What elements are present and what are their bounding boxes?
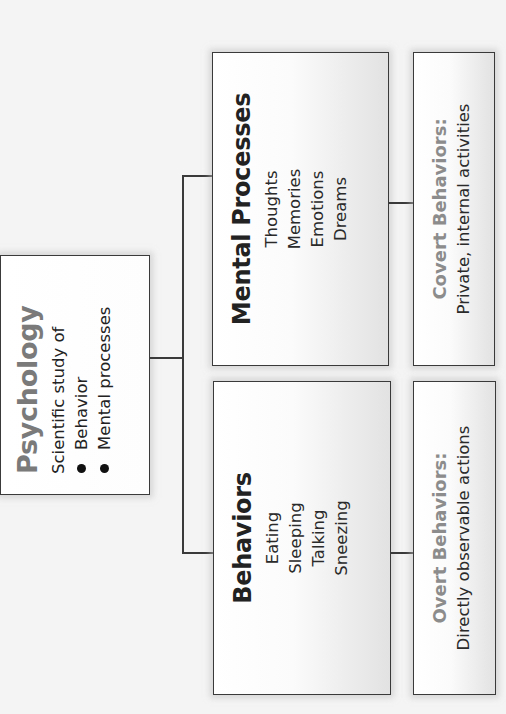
overt-behaviors-description: Directly observable actions xyxy=(452,382,476,694)
behaviors-item: Talking xyxy=(307,382,330,694)
overt-behaviors-box: Overt Behaviors: Directly observable act… xyxy=(413,381,496,695)
covert-behaviors-title: Covert Behaviors: xyxy=(428,53,452,365)
bullet-item-mental-processes: Mental processes xyxy=(93,270,116,474)
mental-processes-item: Memories xyxy=(283,53,306,365)
psychology-diagram: Psychology Scientific study of Behavior … xyxy=(0,0,506,714)
bullet-icon xyxy=(77,464,86,473)
mental-processes-item: Thoughts xyxy=(260,53,283,365)
behaviors-item: Eating xyxy=(261,382,284,694)
bullet-icon xyxy=(100,464,109,473)
connector-mental-to-covert xyxy=(389,203,413,205)
connector-to-mental-processes xyxy=(182,176,213,178)
behaviors-box: Behaviors Eating Sleeping Talking Sneezi… xyxy=(213,381,391,695)
behaviors-title: Behaviors xyxy=(228,382,258,694)
connector-behaviors-to-overt xyxy=(391,553,413,555)
overt-behaviors-title: Overt Behaviors: xyxy=(428,382,452,694)
psychology-bullet-list: Behavior Mental processes xyxy=(70,270,116,474)
mental-processes-items: Thoughts Memories Emotions Dreams xyxy=(260,53,352,365)
mental-processes-item: Dreams xyxy=(329,53,352,365)
psychology-description: Scientific study of xyxy=(47,270,70,474)
connector-bar xyxy=(182,176,184,554)
connector-to-behaviors xyxy=(182,553,213,555)
covert-behaviors-box: Covert Behaviors: Private, internal acti… xyxy=(413,52,495,366)
mental-processes-box: Mental Processes Thoughts Memories Emoti… xyxy=(212,52,389,366)
behaviors-item: Sneezing xyxy=(330,382,353,694)
covert-behaviors-description: Private, internal activities xyxy=(452,53,476,365)
behaviors-items: Eating Sleeping Talking Sneezing xyxy=(261,382,353,694)
connector-root-stem xyxy=(150,358,182,360)
behaviors-item: Sleeping xyxy=(284,382,307,694)
mental-processes-title: Mental Processes xyxy=(227,53,257,365)
psychology-box: Psychology Scientific study of Behavior … xyxy=(0,255,150,495)
bullet-item-behavior: Behavior xyxy=(70,270,93,474)
psychology-title: Psychology xyxy=(13,270,43,474)
mental-processes-item: Emotions xyxy=(306,53,329,365)
